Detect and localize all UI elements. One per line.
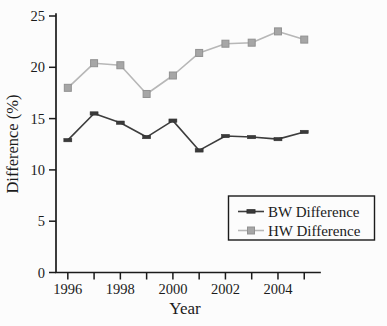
data-point-marker [274,28,281,35]
legend-label-hw: HW Difference [268,223,361,239]
data-point-marker [116,121,124,124]
series-line [68,113,304,150]
data-point-marker [221,134,229,137]
series-bw [64,112,308,152]
data-point-marker [143,135,151,138]
data-point-marker [143,90,150,97]
data-point-marker [196,49,203,56]
y-tick-label: 20 [31,59,46,75]
data-point-marker [64,138,72,141]
data-point-marker [90,112,98,115]
x-tick-label: 1998 [106,281,135,297]
chart-canvas: 19961998200020022004 0510152025 Differen… [0,0,387,326]
legend: BW Difference HW Difference [229,196,375,240]
y-axis-ticks: 0510152025 [31,8,57,281]
y-tick-label: 0 [38,265,45,281]
data-point-marker [117,62,124,69]
y-tick-label: 5 [38,213,45,229]
x-axis-title: Year [169,299,201,318]
data-point-marker [300,130,308,133]
data-point-marker [248,135,256,138]
legend-swatch-bw-marker [247,210,255,213]
legend-label-bw: BW Difference [268,204,360,220]
data-point-marker [274,137,282,140]
x-tick-label: 2004 [263,281,293,297]
series-hw [64,28,307,98]
data-point-marker [248,39,255,46]
series-line [68,31,304,94]
data-point-marker [64,84,71,91]
data-point-marker [169,119,177,122]
x-tick-label: 2002 [211,281,240,297]
data-point-marker [169,72,176,79]
x-axis-ticks: 19961998200020022004 [53,273,304,298]
y-tick-label: 15 [31,111,46,127]
x-tick-label: 1996 [53,281,82,297]
y-tick-label: 25 [31,8,46,24]
legend-swatch-hw-marker [248,227,255,234]
line-chart-figure: 19961998200020022004 0510152025 Differen… [0,0,387,326]
data-point-marker [222,40,229,47]
y-axis-title: Difference (%) [3,94,22,193]
x-tick-label: 2000 [158,281,187,297]
y-tick-label: 10 [31,162,46,178]
data-point-marker [301,36,308,43]
data-point-marker [195,149,203,152]
data-point-marker [91,60,98,67]
